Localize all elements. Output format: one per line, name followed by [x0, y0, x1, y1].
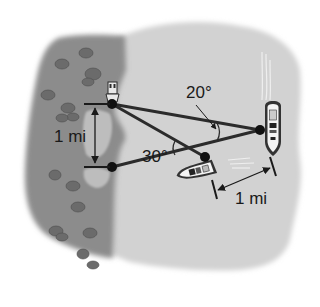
point-boat-near	[200, 152, 210, 162]
point-boat-far	[255, 125, 265, 135]
distance-label-shore: 1 mi	[54, 128, 86, 145]
lighthouse-icon	[106, 82, 119, 102]
angle-label-20: 20°	[186, 84, 212, 101]
boat-far-icon	[265, 101, 281, 156]
distance-label-boats: 1 mi	[235, 190, 267, 207]
land-area	[25, 35, 126, 258]
angle-label-30: 30°	[142, 148, 168, 165]
